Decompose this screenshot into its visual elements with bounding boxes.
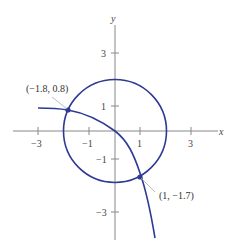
x-tick-label: 1 (137, 138, 142, 149)
x-axis-label: x (218, 126, 224, 137)
leader-line (52, 97, 67, 109)
y-tick-label: −3 (96, 207, 107, 218)
point-label: (1, −1.7) (159, 190, 194, 202)
chart: −3 −1 1 3 3 1 −1 −3 x y (−1.8, 0.8) (1, … (0, 0, 235, 250)
x-tick-label: −3 (31, 138, 42, 149)
x-tick-label: 3 (188, 138, 193, 149)
y-tick-label: −1 (96, 154, 107, 165)
y-tick-label: 1 (101, 101, 106, 112)
y-tick-label: 3 (101, 48, 106, 59)
point-label: (−1.8, 0.8) (26, 83, 68, 95)
y-axis-label: y (110, 13, 116, 24)
x-tick-label: −1 (82, 138, 93, 149)
curve-series (38, 108, 155, 238)
